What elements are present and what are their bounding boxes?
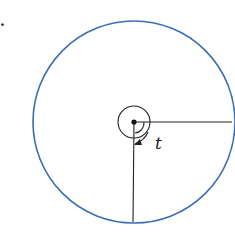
corner-mark: . (0, 13, 5, 29)
angle-label-t: t (155, 133, 162, 153)
vertical-radius (133, 122, 134, 222)
unit-circle-diagram: . t (0, 0, 235, 233)
center-point (131, 119, 136, 124)
arrowhead-icon (134, 139, 142, 145)
angle-arc (135, 122, 144, 133)
